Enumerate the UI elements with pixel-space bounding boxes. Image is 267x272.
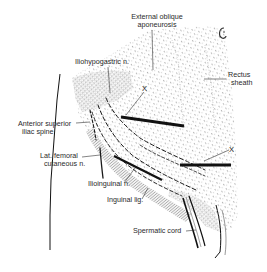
label-spermatic-cord: Spermatic cord <box>133 226 181 235</box>
label-ilioinguinal: Ilioinguinal n. <box>88 179 130 188</box>
label-cutaneous-n: cutaneous n. <box>44 159 85 168</box>
label-iliohypogastric: Iliohypogastric n. <box>75 57 129 66</box>
label-sheath: sheath <box>231 78 253 87</box>
label-x-lower: X <box>229 145 234 154</box>
label-inguinal-lig: Inguinal lig. <box>107 195 143 204</box>
anatomy-diagram: External oblique aponeurosis Iliohypogas… <box>0 0 267 272</box>
label-x-upper: X <box>142 84 147 93</box>
label-iliac-spine: iliac spine <box>22 127 54 136</box>
label-aponeurosis: aponeurosis <box>137 20 177 29</box>
